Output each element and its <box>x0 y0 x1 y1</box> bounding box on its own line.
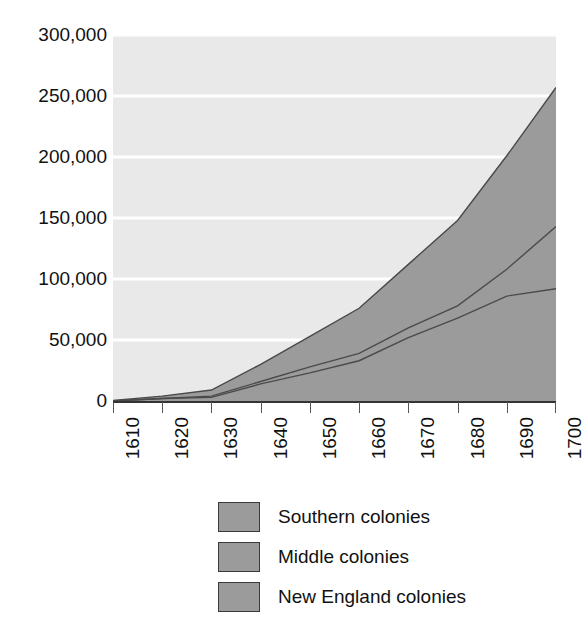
legend-swatch <box>218 582 260 612</box>
x-axis-tick-label: 1650 <box>319 417 341 459</box>
x-axis-tick-mark <box>507 402 508 413</box>
y-axis-tick-label: 100,000 <box>38 268 107 290</box>
legend-label: New England colonies <box>278 586 466 608</box>
plot-svg <box>113 35 556 401</box>
legend-label: Middle colonies <box>278 546 409 568</box>
legend-swatch <box>218 542 260 572</box>
legend-item[interactable]: New England colonies <box>218 577 518 617</box>
x-axis-tick-label: 1700 <box>564 417 585 459</box>
x-axis-tick-label: 1630 <box>220 417 242 459</box>
y-axis-tick-label: 250,000 <box>38 85 107 107</box>
x-axis-tick-mark <box>113 402 114 413</box>
x-axis-tick-label: 1660 <box>368 417 390 459</box>
x-axis-tick-mark <box>310 402 311 413</box>
x-axis-tick-label: 1640 <box>270 417 292 459</box>
x-axis-tick-label: 1610 <box>122 417 144 459</box>
x-axis-tick-label: 1680 <box>467 417 489 459</box>
x-axis-tick-label: 1620 <box>171 417 193 459</box>
x-axis-tick-mark <box>359 402 360 413</box>
y-axis-tick-label: 50,000 <box>49 329 107 351</box>
x-axis-tick-label: 1670 <box>417 417 439 459</box>
x-axis-tick-mark <box>261 402 262 413</box>
x-axis: 1610162016301640165016601670168016901700 <box>113 401 556 496</box>
x-axis-tick-mark <box>458 402 459 413</box>
y-axis-tick-label: 300,000 <box>38 24 107 46</box>
legend-item[interactable]: Southern colonies <box>218 497 518 537</box>
x-axis-tick-mark <box>211 402 212 413</box>
chart-legend: Southern coloniesMiddle coloniesNew Engl… <box>218 497 518 617</box>
y-axis-tick-label: 0 <box>96 390 107 412</box>
y-axis-tick-label: 200,000 <box>38 146 107 168</box>
x-axis-tick-mark <box>408 402 409 413</box>
y-axis-tick-label: 150,000 <box>38 207 107 229</box>
x-axis-tick-mark <box>162 402 163 413</box>
legend-item[interactable]: Middle colonies <box>218 537 518 577</box>
plot-area <box>113 35 556 401</box>
x-axis-line <box>113 401 556 403</box>
x-axis-tick-mark <box>555 402 556 413</box>
stacked-area-chart: 300,000250,000200,000150,000100,00050,00… <box>0 0 585 640</box>
x-axis-tick-label: 1690 <box>516 417 538 459</box>
y-axis: 300,000250,000200,000150,000100,00050,00… <box>0 35 107 401</box>
legend-label: Southern colonies <box>278 506 430 528</box>
legend-swatch <box>218 502 260 532</box>
